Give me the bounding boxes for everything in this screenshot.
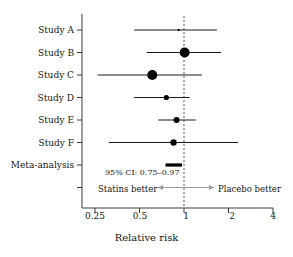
point-estimate-marker — [178, 29, 180, 31]
y-axis-label-study-e: Study E — [0, 115, 74, 125]
point-estimate-marker — [164, 95, 169, 100]
summary-ci-text: 95% CI: 0.75–0.97 — [105, 168, 179, 177]
point-estimate-marker — [174, 117, 180, 123]
point-estimate-marker — [170, 139, 176, 145]
left-direction-label: Statins better — [98, 184, 157, 194]
right-arrow-icon — [209, 185, 214, 190]
x-tick-label-3: 2 — [212, 211, 252, 221]
x-tick-label-1: 0.5 — [120, 211, 160, 221]
point-estimate-marker — [180, 48, 190, 58]
x-axis-title: Relative risk — [0, 232, 293, 243]
right-direction-label: Placebo better — [218, 184, 281, 194]
y-axis-label-study-c: Study C — [0, 70, 74, 80]
x-tick-label-0: 0.25 — [75, 211, 115, 221]
forest-plot-figure: Study A Study B Study C Study D Study E … — [0, 0, 293, 257]
x-tick-label-4: 4 — [253, 211, 293, 221]
y-axis-label-study-d: Study D — [0, 93, 74, 103]
y-axis-label-study-b: Study B — [0, 48, 74, 58]
x-tick-label-2: 1 — [166, 211, 206, 221]
left-arrow-icon — [158, 185, 163, 190]
y-axis-label-meta-analysis: Meta-analysis — [0, 160, 74, 170]
y-axis-label-study-f: Study F — [0, 138, 74, 148]
y-axis-label-study-a: Study A — [0, 25, 74, 35]
point-estimate-marker — [147, 70, 157, 80]
